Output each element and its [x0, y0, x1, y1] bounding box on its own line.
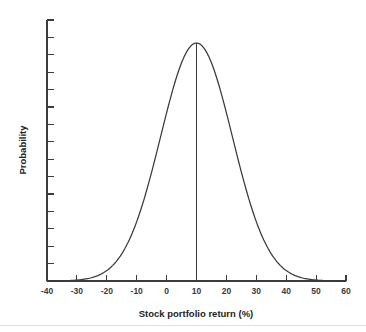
y-axis-group — [47, 20, 54, 281]
x-tick-label: 60 — [341, 286, 351, 296]
x-tick-label: -40 — [41, 286, 54, 296]
x-tick-label: 0 — [164, 286, 169, 296]
x-tick-label: -30 — [71, 286, 84, 296]
x-tick-label: 10 — [192, 286, 202, 296]
x-tick-label: 20 — [222, 286, 232, 296]
x-tick-label: 50 — [311, 286, 321, 296]
x-tick-label: -20 — [101, 286, 114, 296]
x-tick-label: 40 — [281, 286, 291, 296]
x-axis-tick-labels: -40-30-20-100102030405060 — [41, 286, 351, 296]
distribution-chart: -40-30-20-100102030405060 Stock portfoli… — [0, 0, 366, 332]
x-tick-label: 30 — [252, 286, 262, 296]
y-axis-title: Probability — [17, 125, 28, 175]
chart-figure: -40-30-20-100102030405060 Stock portfoli… — [0, 0, 366, 332]
x-tick-label: -10 — [131, 286, 144, 296]
x-axis-title: Stock portfolio return (%) — [139, 308, 254, 319]
y-axis-ticks — [47, 20, 54, 281]
